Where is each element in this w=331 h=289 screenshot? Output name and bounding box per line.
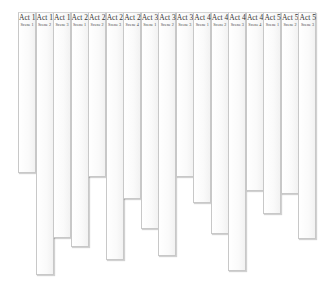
act-label: Act 4	[212, 14, 228, 22]
act-label: Act 1	[19, 14, 35, 22]
scene-label: Scene 3	[229, 22, 245, 27]
scene-label: Scene 1	[194, 22, 210, 27]
scene-column: Act 2Scene 4	[123, 12, 141, 199]
scene-label: Scene 1	[19, 22, 35, 27]
act-label: Act 2	[89, 14, 105, 22]
scene-column: Act 3Scene 1	[141, 12, 159, 229]
act-label: Act 5	[282, 14, 298, 22]
scene-column: Act 1Scene 1	[18, 12, 36, 173]
act-label: Act 2	[107, 14, 123, 22]
scene-column: Act 4Scene 3	[228, 12, 246, 271]
scene-label: Scene 4	[124, 22, 140, 27]
act-label: Act 2	[124, 14, 140, 22]
scene-column: Act 2Scene 1	[71, 12, 89, 247]
scene-label: Scene 3	[299, 22, 315, 27]
scene-length-chart: Act 1Scene 1Act 1Scene 2Act 1Scene 3Act …	[0, 0, 331, 289]
scene-column: Act 5Scene 3	[298, 12, 316, 239]
scene-column: Act 4Scene 1	[193, 12, 211, 203]
scene-label: Scene 2	[89, 22, 105, 27]
act-label: Act 3	[142, 14, 158, 22]
scene-label: Scene 2	[282, 22, 298, 27]
scene-column: Act 4Scene 2	[211, 12, 229, 234]
scene-column: Act 3Scene 2	[158, 12, 176, 256]
scene-column: Act 5Scene 2	[281, 12, 299, 194]
scene-label: Scene 2	[37, 22, 53, 27]
scene-label: Scene 4	[247, 22, 263, 27]
act-label: Act 4	[229, 14, 245, 22]
scene-column: Act 2Scene 3	[106, 12, 124, 260]
scene-column: Act 1Scene 2	[36, 12, 54, 275]
scene-label: Scene 2	[159, 22, 175, 27]
scene-label: Scene 1	[264, 22, 280, 27]
act-label: Act 1	[37, 14, 53, 22]
scene-label: Scene 1	[142, 22, 158, 27]
act-label: Act 1	[54, 14, 70, 22]
scene-label: Scene 3	[54, 22, 70, 27]
scene-label: Scene 2	[212, 22, 228, 27]
act-label: Act 4	[247, 14, 263, 22]
act-label: Act 5	[299, 14, 315, 22]
scene-label: Scene 3	[107, 22, 123, 27]
scene-column: Act 5Scene 1	[263, 12, 281, 214]
scene-column: Act 1Scene 3	[53, 12, 71, 238]
scene-label: Scene 3	[177, 22, 193, 27]
scene-column: Act 2Scene 2	[88, 12, 106, 177]
act-label: Act 3	[177, 14, 193, 22]
scene-column: Act 4Scene 4	[246, 12, 264, 191]
act-label: Act 4	[194, 14, 210, 22]
scene-column: Act 3Scene 3	[176, 12, 194, 177]
act-label: Act 3	[159, 14, 175, 22]
act-label: Act 5	[264, 14, 280, 22]
act-label: Act 2	[72, 14, 88, 22]
scene-label: Scene 1	[72, 22, 88, 27]
